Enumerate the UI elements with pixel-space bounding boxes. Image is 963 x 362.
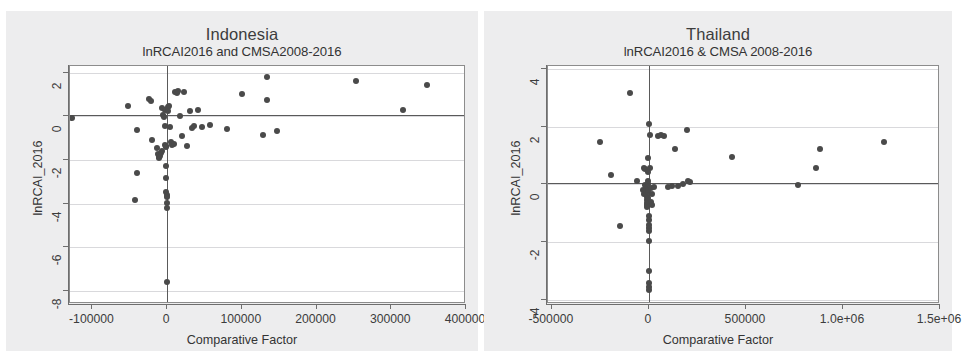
plot-area-left (69, 65, 465, 303)
x-tick-mark (648, 304, 649, 309)
data-point (224, 126, 230, 132)
y-axis-spine-left (68, 65, 69, 304)
x-tick-label: 200000 (295, 312, 336, 326)
data-point (163, 144, 169, 150)
data-point (195, 107, 201, 113)
data-point (184, 143, 190, 149)
data-point (627, 90, 633, 96)
plot-wrapper-left: 20-2-4-6-8 -1000000100000200000300000400… (6, 11, 478, 351)
data-point (167, 124, 173, 130)
data-point (148, 98, 154, 104)
data-point (646, 228, 652, 234)
panel-indonesia: Indonesia lnRCAI2016 and CMSA2008-2016 2… (6, 11, 478, 351)
y-tick-label: 0 (528, 182, 542, 212)
x-tick-label: -500000 (529, 312, 574, 326)
y-tick-label: -2 (528, 240, 542, 270)
data-point (646, 287, 652, 293)
data-point (400, 107, 406, 113)
y-axis-spine-right (546, 65, 547, 304)
x-tick-label: 1.0e+06 (820, 312, 864, 326)
x-tick-mark (316, 304, 317, 309)
gridline-y (70, 116, 464, 117)
data-point (181, 89, 187, 95)
data-point (274, 128, 280, 134)
x-tick-mark (842, 304, 843, 309)
x-tick-label: 0 (163, 312, 170, 326)
data-point (163, 175, 169, 181)
y-axis-label-left: lnRCAI_2016 (31, 128, 45, 228)
y-tick-label: -2 (50, 158, 64, 188)
data-point (645, 178, 651, 184)
data-point (264, 97, 270, 103)
y-tick-label: 2 (528, 125, 542, 155)
gridline-y (70, 247, 464, 248)
data-point (199, 124, 205, 130)
x-tick-mark (939, 304, 940, 309)
data-point (649, 191, 655, 197)
reference-line-horizontal (548, 183, 938, 184)
panel-thailand: Thailand lnRCAI2016 & CMSA 2008-2016 420… (484, 11, 952, 351)
y-tick-label: 2 (50, 71, 64, 101)
data-point (161, 114, 167, 120)
data-point (187, 108, 193, 114)
data-point (125, 103, 131, 109)
x-tick-label: 1.5e+06 (917, 312, 961, 326)
data-point (163, 163, 169, 169)
data-point (179, 133, 185, 139)
data-point (649, 202, 655, 208)
data-point (817, 146, 823, 152)
x-axis-spine-left (68, 304, 466, 305)
data-point (646, 268, 652, 274)
x-tick-mark (91, 304, 92, 309)
data-point (164, 194, 170, 200)
data-point (132, 197, 138, 203)
data-point (647, 165, 653, 171)
y-tick-label: 4 (528, 67, 542, 97)
gridline-y (70, 204, 464, 205)
x-tick-mark (390, 304, 391, 309)
y-tick-label: -4 (50, 202, 64, 232)
data-point (608, 172, 614, 178)
data-point (69, 115, 75, 121)
y-tick-label: -6 (50, 245, 64, 275)
data-point (647, 132, 653, 138)
x-tick-mark (551, 304, 552, 309)
x-tick-label: 500000 (725, 312, 766, 326)
reference-line-horizontal (70, 115, 464, 116)
plot-wrapper-right: 420-2-4 -50000005000001.0e+061.5e+06 lnR… (484, 11, 952, 351)
data-point (651, 184, 657, 190)
data-point (795, 182, 801, 188)
x-tick-label: 0 (645, 312, 652, 326)
x-tick-label: 400000 (445, 312, 486, 326)
x-tick-mark (745, 304, 746, 309)
data-point (617, 223, 623, 229)
data-point (661, 133, 667, 139)
data-point (813, 165, 819, 171)
gridline-y (548, 127, 938, 128)
data-point (164, 205, 170, 211)
data-point (684, 127, 690, 133)
data-point (646, 121, 652, 127)
gridline-y (548, 184, 938, 185)
x-tick-label: -100000 (69, 312, 114, 326)
x-tick-label: 100000 (221, 312, 262, 326)
data-point (207, 122, 213, 128)
plot-area-right (547, 65, 939, 303)
data-point (134, 127, 140, 133)
data-point (165, 108, 171, 114)
data-point (672, 146, 678, 152)
data-point (164, 279, 170, 285)
y-axis-label-right: lnRCAI_2016 (509, 128, 523, 228)
data-point (149, 137, 155, 143)
data-point (191, 123, 197, 129)
reference-line-vertical (167, 66, 168, 302)
x-axis-spine-right (546, 304, 940, 305)
data-point (424, 82, 430, 88)
data-point (645, 155, 651, 161)
data-point (166, 103, 172, 109)
data-point (881, 139, 887, 145)
data-point (175, 88, 181, 94)
data-point (353, 78, 359, 84)
data-point (171, 141, 177, 147)
x-axis-label-left: Comparative Factor (6, 333, 478, 347)
